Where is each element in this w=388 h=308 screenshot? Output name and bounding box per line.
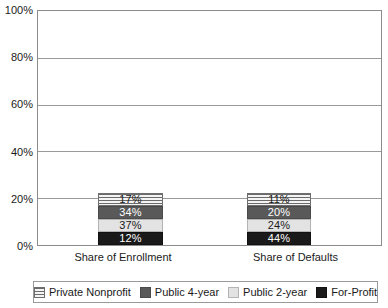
x-category-label-enrollment: Share of Enrollment [37, 251, 209, 263]
legend-item-for-profit[interactable]: For-Profit [316, 287, 377, 298]
legend-swatch-private-nonprofit-icon [34, 287, 45, 298]
bar-share-of-defaults[interactable]: 11% 20% 24% 44% [247, 193, 311, 245]
stacked-bar-chart: 100% 80% 60% 40% 20% 0% 17% 34% 37% 12% [0, 0, 388, 308]
legend-label: Public 2-year [243, 287, 307, 298]
segment-value-label: 44% [268, 233, 290, 244]
bar-share-of-enrollment[interactable]: 17% 34% 37% 12% [98, 193, 163, 245]
legend-swatch-public-2-year-icon [228, 287, 239, 298]
segment-public-2-year[interactable]: 37% [98, 219, 163, 232]
legend-item-public-2-year[interactable]: Public 2-year [228, 287, 307, 298]
segment-value-label: 24% [268, 220, 290, 231]
segment-private-nonprofit[interactable]: 11% [247, 193, 311, 206]
gridline-80 [38, 58, 381, 59]
segment-public-2-year[interactable]: 24% [247, 219, 311, 232]
legend: Private Nonprofit Public 4-year Public 2… [33, 281, 378, 303]
segment-private-nonprofit[interactable]: 17% [98, 193, 163, 206]
segment-value-label: 12% [119, 233, 141, 244]
gridline-40 [38, 151, 381, 152]
segment-value-label: 20% [268, 207, 290, 218]
y-axis: 100% 80% 60% 40% 20% 0% [0, 10, 33, 246]
gridline-20 [38, 198, 381, 199]
legend-item-private-nonprofit[interactable]: Private Nonprofit [34, 287, 131, 298]
segment-value-label: 17% [119, 194, 141, 205]
x-category-label-defaults: Share of Defaults [209, 251, 382, 263]
legend-label: Public 4-year [155, 287, 219, 298]
segment-value-label: 34% [119, 207, 141, 218]
segment-public-4-year[interactable]: 34% [98, 206, 163, 219]
plot-area: 17% 34% 37% 12% 11% 20% 24% 44 [37, 10, 382, 246]
y-tick-label-20: 20% [0, 193, 33, 204]
y-tick-label-100: 100% [0, 5, 33, 16]
y-tick-label-40: 40% [0, 146, 33, 157]
segment-for-profit[interactable]: 44% [247, 232, 311, 245]
segment-value-label: 11% [268, 194, 290, 205]
gridline-60 [38, 105, 381, 106]
legend-label: Private Nonprofit [49, 287, 131, 298]
legend-label: For-Profit [331, 287, 377, 298]
legend-swatch-public-4-year-icon [140, 287, 151, 298]
y-tick-label-0: 0% [0, 241, 33, 252]
segment-for-profit[interactable]: 12% [98, 232, 163, 245]
legend-swatch-for-profit-icon [316, 287, 327, 298]
legend-item-public-4-year[interactable]: Public 4-year [140, 287, 219, 298]
y-tick-label-80: 80% [0, 52, 33, 63]
y-tick-label-60: 60% [0, 99, 33, 110]
segment-value-label: 37% [119, 220, 141, 231]
segment-public-4-year[interactable]: 20% [247, 206, 311, 219]
